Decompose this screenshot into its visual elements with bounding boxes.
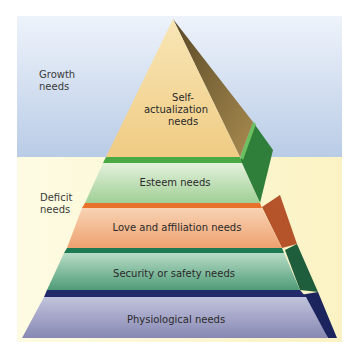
self-actualization-label: Self- actualization needs — [144, 92, 208, 128]
deficit-label-line1: Deficit — [40, 192, 72, 204]
growth-label-line2: needs — [39, 81, 75, 93]
deficit-label-line2: needs — [40, 204, 72, 216]
self-actualization-line3: needs — [144, 116, 208, 128]
security-top-band — [64, 248, 284, 253]
maslow-pyramid-diagram: Growth needs Deficit needs Self- actuali… — [0, 0, 360, 353]
love-affiliation-needs-label: Love and affiliation needs — [113, 222, 242, 234]
growth-needs-label: Growth needs — [39, 69, 75, 93]
esteem-needs-label: Esteem needs — [140, 177, 211, 189]
physiological-top-band — [44, 290, 306, 297]
physiological-needs-label: Physiological needs — [127, 314, 225, 326]
security-safety-needs-label: Security or safety needs — [113, 268, 235, 280]
self-actualization-line2: actualization — [144, 104, 208, 116]
love-top-band — [82, 203, 262, 208]
deficit-needs-label: Deficit needs — [40, 192, 72, 216]
growth-label-line1: Growth — [39, 69, 75, 81]
esteem-top-band — [103, 157, 242, 163]
self-actualization-line1: Self- — [144, 92, 208, 104]
